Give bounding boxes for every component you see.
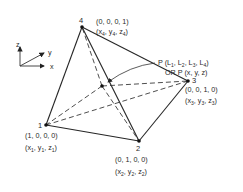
y-axis (20, 53, 44, 66)
vertex-3-dot (186, 79, 190, 83)
vertex-3-number: 3 (192, 76, 196, 85)
p-leader-arrow (108, 63, 155, 82)
point-p-dot (100, 84, 104, 88)
vertex-1-dot (44, 123, 48, 127)
vertex-4-dot (80, 25, 84, 29)
vertex-2-natural-coords: (0, 1, 0, 0) (115, 155, 148, 164)
edge-2-3 (139, 81, 188, 141)
vertex-2-number: 2 (136, 144, 140, 153)
y-axis-label: y (48, 48, 52, 57)
z-axis-label: z (16, 40, 20, 49)
edge-1-2 (46, 125, 139, 141)
interior-lines (46, 27, 188, 141)
line-p-2 (102, 86, 139, 141)
vertex-4-number: 4 (79, 16, 83, 25)
vertex-1-cartesian-coords: (x1, y1, z1) (25, 143, 57, 153)
vertex-3-natural-coords: (0, 0, 1, 0) (185, 85, 218, 94)
tetrahedron-diagram: z y x 4 3 1 2 (0, 0, 0, 1) (x4, y4, z4) … (0, 0, 243, 192)
axis-triad: z y x (16, 40, 54, 71)
edge-1-3-hidden (46, 81, 188, 125)
line-p-1 (46, 86, 102, 125)
tetrahedron-edges (46, 27, 188, 141)
vertex-1-natural-coords: (1, 0, 0, 0) (25, 131, 58, 140)
vertex-4-natural-coords: (0, 0, 0, 1) (96, 17, 129, 26)
vertex-2-dot (137, 139, 141, 143)
vertex-3-cartesian-coords: (x3, y3, z3) (185, 96, 217, 106)
vertex-1-number: 1 (38, 121, 42, 130)
vertex-2-cartesian-coords: (x2, y2, z2) (115, 167, 147, 177)
point-p-cartesian-label: OR P (x, y, z) (165, 68, 207, 77)
edge-1-4 (46, 27, 82, 125)
vertex-4-cartesian-coords: (x4, y4, z4) (96, 27, 128, 37)
x-axis-label: x (50, 62, 54, 71)
point-p-natural-label: P (L1, L2, L3, L4) (158, 58, 209, 68)
line-p-3 (102, 81, 188, 86)
